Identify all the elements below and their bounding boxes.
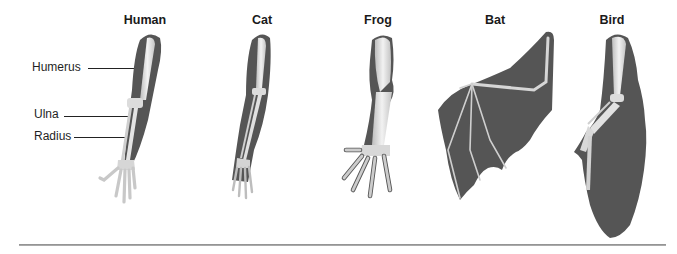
frog-arm <box>344 35 394 196</box>
human-arm <box>100 34 161 202</box>
bat-wing <box>438 32 554 200</box>
homologous-structures-diagram: Human Cat Frog Bat Bird Humerus Ulna Rad… <box>0 0 677 254</box>
baseline-divider <box>19 244 666 246</box>
bird-wing <box>574 34 646 238</box>
limb-illustrations <box>0 0 677 254</box>
cat-leg <box>232 34 271 198</box>
